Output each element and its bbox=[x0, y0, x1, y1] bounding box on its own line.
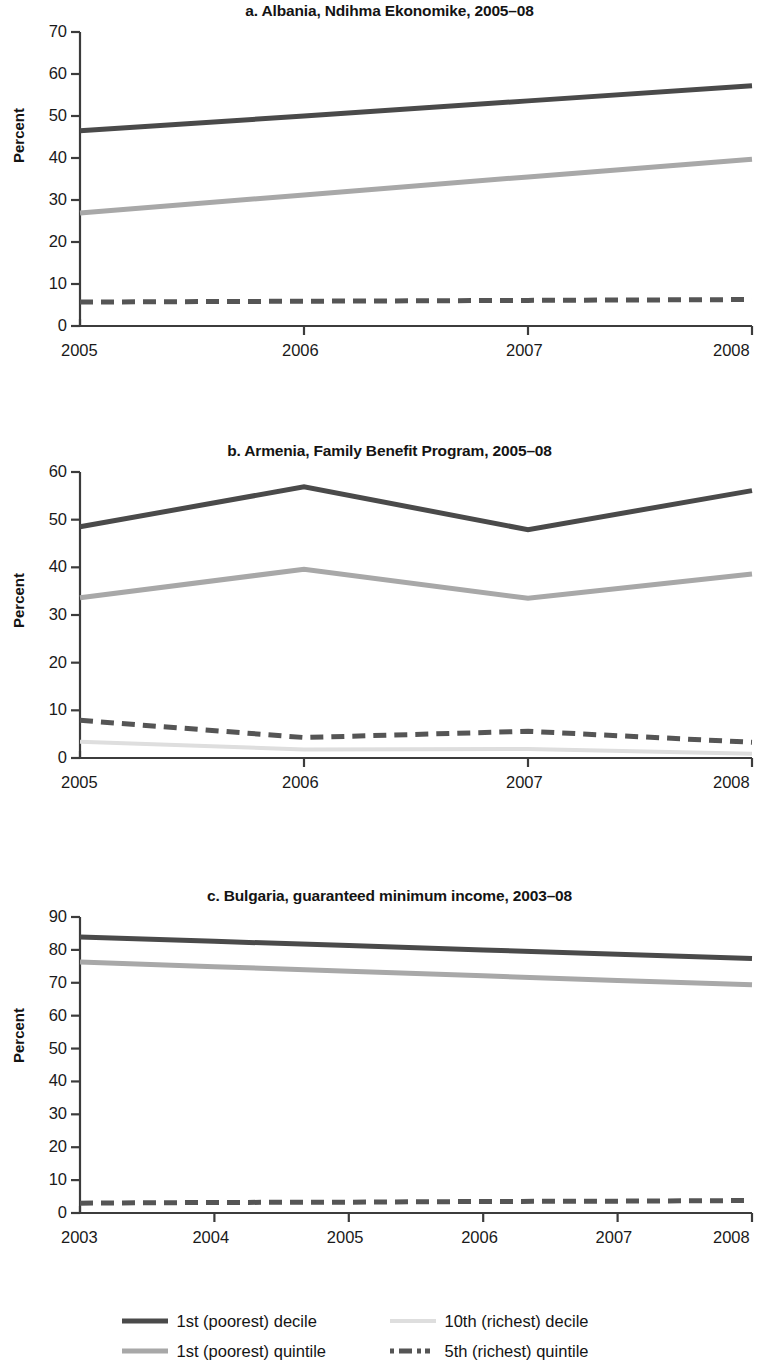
legend-swatch-decile1 bbox=[122, 1314, 168, 1328]
y-tick-label: 30 bbox=[29, 1105, 67, 1122]
y-axis-label: Percent bbox=[10, 991, 27, 1081]
y-tick-label: 80 bbox=[29, 941, 67, 958]
x-tick-label: 2005 bbox=[61, 342, 98, 359]
x-tick-label: 2007 bbox=[596, 1229, 633, 1246]
series-line-decile10 bbox=[80, 742, 752, 754]
x-tick-label: 2005 bbox=[327, 1229, 364, 1246]
y-tick-label: 10 bbox=[29, 1171, 67, 1188]
legend-label-decile1: 1st (poorest) decile bbox=[177, 1313, 317, 1330]
chart-panel-bulgaria: c. Bulgaria, guaranteed minimum income, … bbox=[0, 885, 779, 1247]
y-tick-label: 70 bbox=[29, 974, 67, 991]
y-tick-label: 50 bbox=[29, 1040, 67, 1057]
chart-panel-albania: a. Albania, Ndihma Ekonomike, 2005–08 01… bbox=[0, 0, 779, 360]
series-line-quintile1 bbox=[80, 962, 752, 985]
series-line-quintile5 bbox=[80, 300, 752, 303]
y-tick-label: 10 bbox=[29, 701, 67, 718]
legend-row-2: 1st (poorest) quintile 5th (richest) qui… bbox=[0, 1336, 779, 1366]
y-tick-label: 40 bbox=[29, 558, 67, 575]
legend-label-quintile5: 5th (richest) quintile bbox=[445, 1343, 589, 1360]
legend-swatch-quintile1 bbox=[122, 1344, 168, 1358]
plot-area-albania: 0102030405060702005200620072008Percent bbox=[0, 22, 779, 360]
x-tick-label: 2006 bbox=[282, 342, 319, 359]
y-tick-label: 0 bbox=[29, 317, 67, 334]
series-line-quintile1 bbox=[80, 159, 752, 213]
y-axis-label: Percent bbox=[10, 91, 27, 181]
y-tick-label: 30 bbox=[29, 606, 67, 623]
x-tick-label: 2006 bbox=[282, 774, 319, 791]
y-tick-label: 40 bbox=[29, 149, 67, 166]
legend-row-1: 1st (poorest) decile 10th (richest) deci… bbox=[0, 1306, 779, 1336]
legend-item-decile10: 10th (richest) decile bbox=[390, 1313, 658, 1330]
y-tick-label: 90 bbox=[29, 908, 67, 925]
chart-svg-a bbox=[0, 22, 779, 360]
legend-item-decile1: 1st (poorest) decile bbox=[122, 1313, 390, 1330]
y-tick-label: 10 bbox=[29, 275, 67, 292]
x-tick-label: 2006 bbox=[461, 1229, 498, 1246]
chart-svg-b bbox=[0, 462, 779, 792]
chart-title-armenia: b. Armenia, Family Benefit Program, 2005… bbox=[0, 440, 779, 462]
x-tick-label: 2008 bbox=[713, 342, 750, 359]
legend-swatch-quintile5 bbox=[390, 1344, 436, 1358]
legend-swatch-decile10 bbox=[390, 1314, 436, 1328]
y-tick-label: 50 bbox=[29, 107, 67, 124]
chart-legend: 1st (poorest) decile 10th (richest) deci… bbox=[0, 1306, 779, 1366]
series-line-quintile5 bbox=[80, 1201, 752, 1204]
x-tick-label: 2008 bbox=[713, 774, 750, 791]
x-tick-label: 2007 bbox=[506, 342, 543, 359]
x-tick-label: 2003 bbox=[61, 1229, 98, 1246]
chart-svg-c bbox=[0, 907, 779, 1247]
series-line-decile1 bbox=[80, 487, 752, 530]
y-tick-label: 20 bbox=[29, 1138, 67, 1155]
y-tick-label: 40 bbox=[29, 1072, 67, 1089]
chart-title-bulgaria: c. Bulgaria, guaranteed minimum income, … bbox=[0, 885, 779, 907]
x-tick-label: 2007 bbox=[506, 774, 543, 791]
series-line-decile1 bbox=[80, 937, 752, 958]
y-tick-label: 20 bbox=[29, 654, 67, 671]
y-tick-label: 0 bbox=[29, 749, 67, 766]
y-tick-label: 0 bbox=[29, 1204, 67, 1221]
series-line-decile1 bbox=[80, 86, 752, 131]
y-tick-label: 70 bbox=[29, 23, 67, 40]
chart-panel-armenia: b. Armenia, Family Benefit Program, 2005… bbox=[0, 440, 779, 792]
y-tick-label: 60 bbox=[29, 1007, 67, 1024]
legend-item-quintile5: 5th (richest) quintile bbox=[390, 1343, 658, 1360]
x-tick-label: 2004 bbox=[192, 1229, 229, 1246]
y-axis-label: Percent bbox=[10, 556, 27, 646]
legend-label-decile10: 10th (richest) decile bbox=[445, 1313, 589, 1330]
legend-label-quintile1: 1st (poorest) quintile bbox=[177, 1343, 327, 1360]
x-tick-label: 2005 bbox=[61, 774, 98, 791]
series-line-quintile5 bbox=[80, 720, 752, 742]
y-tick-label: 30 bbox=[29, 191, 67, 208]
y-tick-label: 60 bbox=[29, 463, 67, 480]
chart-title-albania: a. Albania, Ndihma Ekonomike, 2005–08 bbox=[0, 0, 779, 22]
plot-area-armenia: 01020304050602005200620072008Percent bbox=[0, 462, 779, 792]
y-tick-label: 20 bbox=[29, 233, 67, 250]
y-tick-label: 50 bbox=[29, 511, 67, 528]
x-tick-label: 2008 bbox=[713, 1229, 750, 1246]
legend-item-quintile1: 1st (poorest) quintile bbox=[122, 1343, 390, 1360]
plot-area-bulgaria: 0102030405060708090200320042005200620072… bbox=[0, 907, 779, 1247]
series-line-quintile1 bbox=[80, 569, 752, 598]
y-tick-label: 60 bbox=[29, 65, 67, 82]
